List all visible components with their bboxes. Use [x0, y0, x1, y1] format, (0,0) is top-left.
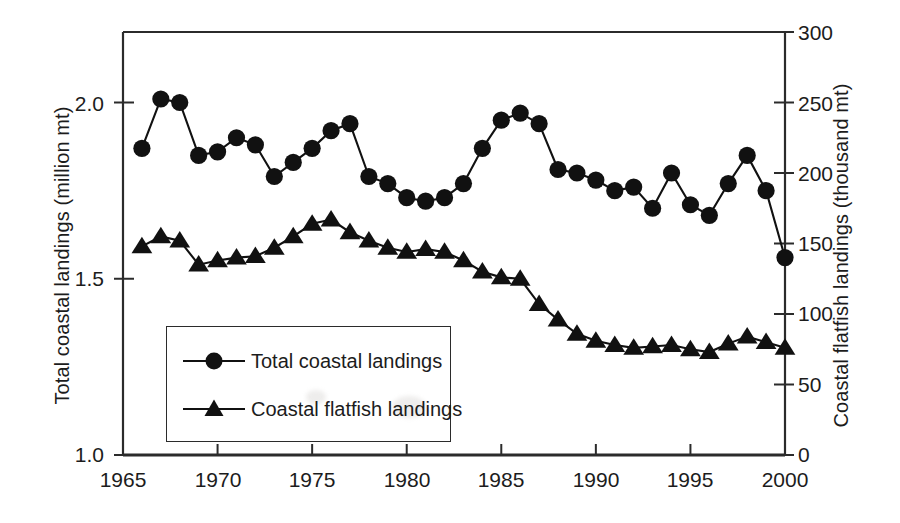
data-point [549, 161, 566, 178]
data-point [436, 189, 453, 206]
data-point [321, 210, 342, 227]
data-point [304, 140, 321, 157]
data-point [739, 147, 756, 164]
data-point [171, 94, 188, 111]
data-point [663, 164, 680, 181]
data-point [133, 140, 150, 157]
data-point [776, 249, 793, 266]
data-point [455, 175, 472, 192]
data-point [209, 143, 226, 160]
data-point [132, 237, 153, 254]
data-point [340, 223, 361, 240]
legend: Total coastal landings Coastal flatfish … [166, 326, 451, 442]
data-point [512, 104, 529, 121]
data-point [415, 240, 436, 257]
data-point [398, 189, 415, 206]
legend-item-total-coastal-landings: Total coastal landings [167, 341, 450, 381]
data-point [720, 175, 737, 192]
data-point [567, 324, 588, 341]
data-point [360, 168, 377, 185]
data-point [474, 140, 491, 157]
data-point [359, 231, 380, 248]
data-point [245, 247, 266, 264]
circle-marker-icon [181, 349, 247, 373]
data-point [228, 129, 245, 146]
legend-label-flatfish: Coastal flatfish landings [251, 398, 462, 421]
data-point [377, 238, 398, 255]
data-point [285, 154, 302, 171]
data-point [661, 335, 682, 352]
data-point [529, 295, 550, 312]
legend-label-total: Total coastal landings [251, 350, 442, 373]
chart-figure: Total coastal landings (million mt) Coas… [0, 0, 900, 523]
plot-canvas [0, 0, 900, 523]
data-point [737, 327, 758, 344]
legend-item-coastal-flatfish-landings: Coastal flatfish landings [167, 389, 450, 429]
data-point [587, 171, 604, 188]
data-point [283, 227, 304, 244]
data-point [150, 227, 171, 244]
data-point [266, 168, 283, 185]
data-point [757, 182, 774, 199]
data-point [247, 136, 264, 153]
data-point [472, 262, 493, 279]
data-point [568, 164, 585, 181]
data-point [701, 207, 718, 224]
data-point [379, 175, 396, 192]
triangle-marker-icon [181, 397, 247, 421]
data-point [322, 122, 339, 139]
data-point [152, 90, 169, 107]
data-point [264, 238, 285, 255]
data-point [718, 334, 739, 351]
data-point [190, 147, 207, 164]
data-point [341, 115, 358, 132]
data-point [531, 115, 548, 132]
data-point [493, 112, 510, 129]
data-point [625, 179, 642, 196]
data-point [585, 331, 606, 348]
data-point [453, 251, 474, 268]
data-point [644, 200, 661, 217]
data-point [417, 193, 434, 210]
data-point [606, 182, 623, 199]
series-total-coastal-landings [133, 90, 793, 266]
data-point [682, 196, 699, 213]
